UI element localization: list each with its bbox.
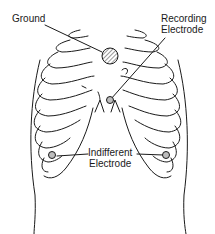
torso-right-outline <box>178 60 187 234</box>
ground-electrode-icon <box>102 48 118 64</box>
recording-electrode-label: Recording Electrode <box>161 13 207 35</box>
ground-leader-line <box>45 25 102 52</box>
indifferent-electrode-label: Indifferent Electrode <box>88 147 132 169</box>
indifferent-electrode-right-icon <box>163 152 170 159</box>
ground-label: Ground <box>12 13 45 24</box>
recording-leader-line <box>111 38 165 99</box>
indifferent-left-leader-line <box>57 154 88 156</box>
recording-electrode-icon <box>107 97 114 104</box>
rib-cage-illustration <box>0 0 215 234</box>
indifferent-electrode-left-icon <box>49 152 56 159</box>
rib-cage-electrode-diagram: Ground Recording Electrode Indifferent E… <box>0 0 215 234</box>
indifferent-right-leader-line <box>137 154 163 155</box>
